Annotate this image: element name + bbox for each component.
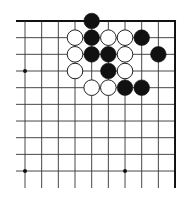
star-point — [23, 169, 27, 173]
board-grid — [16, 21, 176, 188]
black-stone — [151, 47, 167, 63]
black-stone — [101, 63, 117, 79]
black-stone — [84, 13, 100, 29]
black-stone — [84, 47, 100, 63]
black-stone — [134, 80, 150, 96]
star-point — [123, 169, 127, 173]
white-stone — [67, 63, 83, 79]
white-stone — [117, 63, 133, 79]
white-stone — [67, 47, 83, 63]
black-stone — [134, 30, 150, 46]
white-stone — [117, 30, 133, 46]
white-stone — [67, 30, 83, 46]
white-stone — [117, 47, 133, 63]
white-stone — [101, 30, 117, 46]
black-stone — [101, 47, 117, 63]
go-board — [0, 0, 187, 198]
star-point — [23, 69, 27, 73]
white-stone — [101, 80, 117, 96]
white-stone — [84, 80, 100, 96]
black-stone — [84, 30, 100, 46]
black-stone — [117, 80, 133, 96]
